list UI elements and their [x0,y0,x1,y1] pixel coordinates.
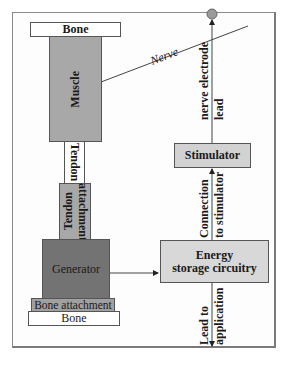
muscle-block: Muscle [49,36,102,142]
bone-top-block: Bone [30,22,121,37]
nerve-electrode-icon [207,9,217,19]
tendon-attachment-block: Tendon attachment [59,183,91,240]
stimulator-block: Stimulator [174,143,251,168]
bone-attachment-label: Bone attachment [34,299,112,312]
nerve-lead-label-2: lead [213,24,226,120]
stimulator-label: Stimulator [185,149,240,162]
tendon-attachment-label-1: Tendon [62,192,75,230]
connection-to-stimulator-label: Connection to stimulator [198,172,226,238]
bone-bottom-label: Bone [61,312,86,325]
energy-label-1: Energy [196,249,233,262]
generator-block: Generator [42,239,110,299]
energy-storage-block: Energy storage circuitry [160,240,269,283]
bone-bottom-block: Bone [28,311,120,326]
bone-attachment-block: Bone attachment [31,298,115,312]
energy-label-2: storage circuitry [172,262,257,275]
muscle-label: Muscle [69,71,82,108]
nerve-electrode-lead-label: nerve electrode lead [198,24,226,120]
lead-app-label-1: Lead to [198,285,211,345]
lead-to-application-label: Lead to application [198,285,226,345]
tendon-attachment-label-2: attachment [76,183,89,241]
bone-top-label: Bone [62,23,88,36]
tendon-block: Tendon [64,141,85,184]
tendon-label: Tendon [68,143,81,181]
lead-app-label-2: application [213,285,226,345]
connection-label-1: Connection [198,172,211,238]
connection-label-2: to stimulator [213,172,226,238]
nerve-lead-label-1: nerve electrode [198,24,211,120]
generator-label: Generator [52,263,100,276]
